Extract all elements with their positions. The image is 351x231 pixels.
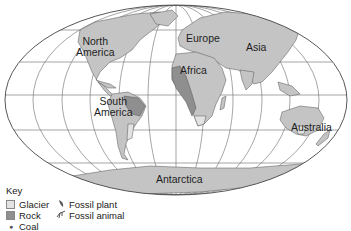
rock-swatch: [6, 211, 15, 220]
key-label-glacier: Glacier: [19, 199, 49, 210]
key-label-rock: Rock: [19, 210, 41, 221]
fossil-plant-icon: [56, 199, 66, 210]
label-australia: Australia: [291, 122, 332, 133]
key-item-fossil-animal: Fossil animal: [56, 210, 124, 221]
key-label-fossil-animal: Fossil animal: [69, 210, 124, 221]
label-antarctica: Antarctica: [156, 174, 203, 185]
key-item-coal: ● Coal: [6, 221, 39, 231]
se-asia-islands: [278, 82, 300, 96]
label-north-america: North America: [76, 36, 115, 58]
glacier-swatch: [6, 200, 15, 209]
india-landmass: [240, 70, 254, 90]
africa-glacier: [194, 116, 206, 126]
key-label-coal: Coal: [19, 221, 39, 231]
label-africa: Africa: [180, 65, 207, 76]
key-item-glacier: Glacier: [6, 199, 49, 210]
world-map: [0, 0, 351, 200]
label-america-2: America: [94, 107, 133, 118]
label-europe: Europe: [186, 33, 220, 44]
label-south-america: South America: [94, 96, 133, 118]
key-item-rock: Rock: [6, 210, 41, 221]
coal-dot-icon: ●: [6, 223, 16, 230]
fossil-animal-icon: [56, 210, 66, 221]
key-title: Key: [6, 185, 22, 196]
south-america-glacier: [127, 124, 134, 140]
key-item-fossil-plant: Fossil plant: [56, 199, 117, 210]
label-asia: Asia: [246, 42, 266, 53]
madagascar-landmass: [220, 96, 226, 110]
label-america: America: [76, 47, 115, 58]
key-label-fossil-plant: Fossil plant: [69, 199, 117, 210]
